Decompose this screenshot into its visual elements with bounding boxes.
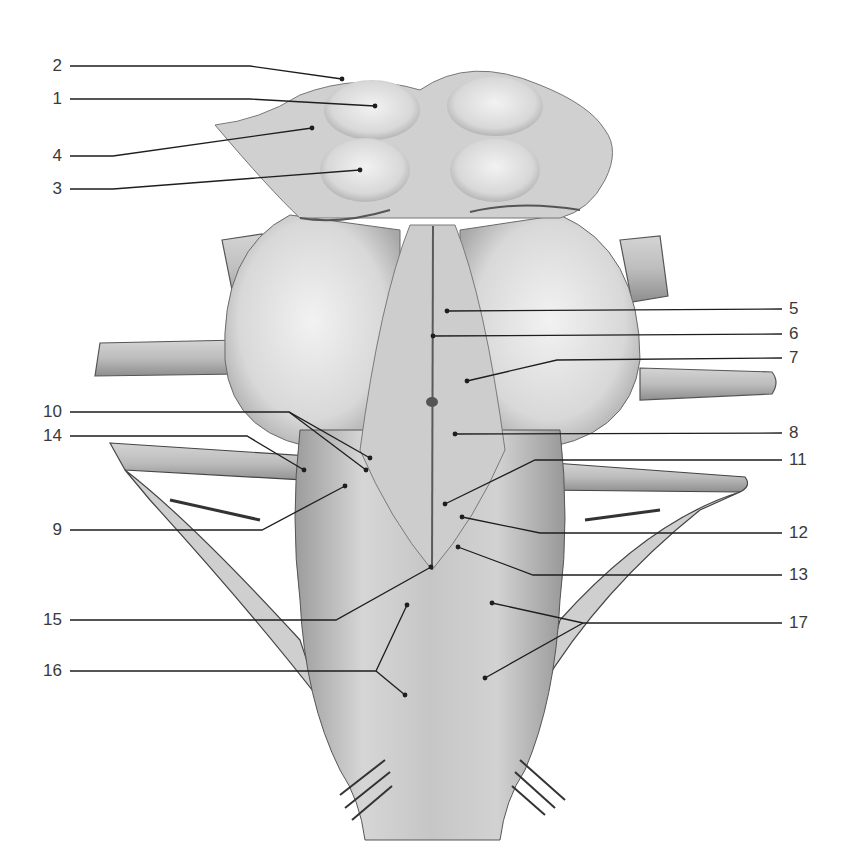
callout-label-9: 9 [22, 521, 62, 538]
leader-dot-1 [373, 104, 378, 109]
leader-dot-6 [431, 334, 436, 339]
leader-dot-7 [465, 379, 470, 384]
leader-dot-12 [460, 515, 465, 520]
midbrain-tectum [215, 71, 613, 218]
leader-dot-10 [368, 456, 373, 461]
callout-label-1: 1 [22, 90, 62, 107]
leader-dot-10 [364, 468, 369, 473]
callout-label-17: 17 [789, 614, 808, 631]
leader-dot-2 [340, 77, 345, 82]
leader-dot-14 [302, 468, 307, 473]
inferior-colliculus-left [320, 138, 410, 202]
callout-label-16: 16 [22, 662, 62, 679]
callout-label-10: 10 [22, 403, 62, 420]
leader-dot-16 [403, 693, 408, 698]
leader-dot-4 [310, 126, 315, 131]
leader-dot-15 [429, 565, 434, 570]
superior-colliculus-left [324, 80, 420, 140]
callout-label-6: 6 [789, 325, 798, 342]
leader-dot-9 [343, 484, 348, 489]
callout-label-11: 11 [789, 451, 807, 468]
leader-dot-17 [483, 676, 488, 681]
leader-dot-3 [358, 168, 363, 173]
callout-label-3: 3 [22, 180, 62, 197]
inferior-colliculus-right [450, 138, 540, 202]
leader-dot-17 [490, 601, 495, 606]
leader-dot-5 [445, 309, 450, 314]
leader-dot-16 [405, 603, 410, 608]
callout-label-7: 7 [789, 349, 798, 366]
superior-colliculus-right [447, 76, 543, 136]
leader-dot-11 [443, 502, 448, 507]
callout-label-4: 4 [22, 147, 62, 164]
leader-line-2 [70, 66, 342, 79]
callout-label-12: 12 [789, 524, 808, 541]
callout-label-15: 15 [22, 611, 62, 628]
callout-label-5: 5 [789, 300, 798, 317]
brainstem-illustration [0, 0, 852, 842]
callout-label-14: 14 [22, 427, 62, 444]
callout-label-8: 8 [789, 424, 798, 441]
leader-dot-8 [453, 432, 458, 437]
leader-dot-13 [456, 545, 461, 550]
callout-label-13: 13 [789, 566, 808, 583]
callout-label-2: 2 [22, 57, 62, 74]
